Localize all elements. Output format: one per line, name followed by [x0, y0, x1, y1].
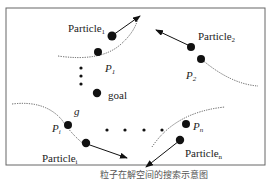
ellipsis-dot	[105, 128, 108, 131]
particle-2-dot	[187, 43, 195, 51]
trajectory-curve-2	[200, 58, 258, 86]
ellipsis-dot	[79, 66, 82, 69]
particle-1-dot	[108, 32, 117, 41]
goal-label: goal	[108, 89, 127, 101]
ellipsis-dot	[79, 82, 82, 85]
p2-dot	[197, 55, 205, 63]
figure-caption: 粒子在解空间的搜索示意图	[100, 169, 208, 179]
ellipsis-dot	[79, 74, 82, 77]
ellipsis-dot	[160, 128, 163, 131]
p1-dot	[94, 48, 102, 56]
ellipsis-dot	[123, 128, 126, 131]
pi-dot	[64, 121, 72, 129]
pi-label: Pi	[51, 122, 61, 136]
particle-i-dot	[82, 139, 90, 147]
velocity-arrow-n	[146, 141, 179, 167]
particle-2-label: Particle2	[198, 30, 236, 44]
goal-dot	[93, 89, 101, 97]
p1-label: P1	[104, 62, 115, 76]
p2-label: P2	[185, 69, 197, 83]
particle-1-label: Particle1	[68, 22, 106, 36]
velocity-arrow-1	[113, 16, 140, 35]
velocity-arrow-2	[156, 30, 190, 46]
pn-dot	[182, 120, 190, 128]
particle-search-diagram: Particle1 P1 goal Particle2 P2 g Pi Part…	[0, 0, 273, 179]
velocity-arrow-i	[87, 144, 127, 158]
pn-label: Pn	[192, 120, 204, 134]
ellipsis-dot	[142, 128, 145, 131]
particle-i-label: Particlei	[42, 152, 78, 166]
g-label: g	[74, 105, 80, 117]
particle-n-label: Particlen	[185, 147, 223, 161]
